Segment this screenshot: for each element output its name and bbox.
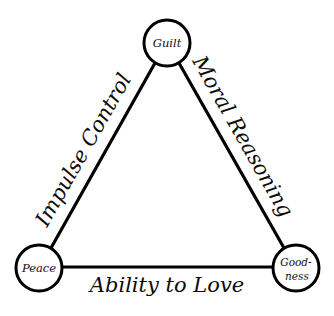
- edge-label-impulse-control: Impulse Control: [30, 69, 136, 231]
- edge-labels: Impulse Control Moral Reasoning Ability …: [30, 51, 298, 297]
- node-circles: [16, 20, 319, 291]
- diagram-canvas: Guilt Peace Good- ness Impulse Control M…: [0, 0, 334, 316]
- edge-label-moral-reasoning: Moral Reasoning: [187, 51, 298, 222]
- node-circle-goodness[interactable]: [273, 245, 319, 291]
- node-label-goodness-line2: ness: [285, 270, 309, 282]
- edge-label-ability-to-love: Ability to Love: [88, 273, 244, 297]
- triangle-diagram: Guilt Peace Good- ness Impulse Control M…: [0, 0, 334, 316]
- node-label-guilt: Guilt: [153, 36, 182, 50]
- node-label-peace: Peace: [21, 261, 56, 275]
- node-label-goodness-line1: Good-: [280, 256, 312, 268]
